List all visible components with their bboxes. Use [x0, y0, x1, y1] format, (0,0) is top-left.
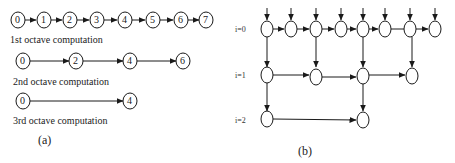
- node-label: 6: [178, 15, 183, 25]
- caption-b: (b): [298, 145, 312, 157]
- node-label: 2: [67, 15, 72, 25]
- level-label-i0: i=0: [235, 26, 246, 34]
- node-label: 0: [20, 96, 25, 106]
- node-label: 3: [94, 15, 99, 25]
- octave-2-row: [16, 53, 190, 69]
- level-label-i2: i=2: [235, 117, 246, 125]
- level-label-i1: i=1: [235, 72, 246, 80]
- node-label: 0: [15, 15, 20, 25]
- node-label: 4: [127, 96, 132, 106]
- octave-3-row: [16, 93, 137, 109]
- row-label-octave-1: 1st octave computation: [10, 35, 103, 45]
- row-label-octave-2: 2nd octave computation: [13, 77, 109, 87]
- node-label: 6: [180, 56, 185, 66]
- node-label: 7: [203, 15, 208, 25]
- node-label: 0: [20, 56, 25, 66]
- caption-a: (a): [38, 134, 51, 146]
- node-label: 4: [127, 56, 132, 66]
- node-label: 4: [122, 15, 127, 25]
- node-label: 1: [41, 15, 46, 25]
- lattice-graph: [261, 8, 441, 128]
- node-label: 5: [150, 15, 155, 25]
- row-label-octave-3: 3rd octave computation: [13, 116, 107, 126]
- node-label: 2: [73, 56, 78, 66]
